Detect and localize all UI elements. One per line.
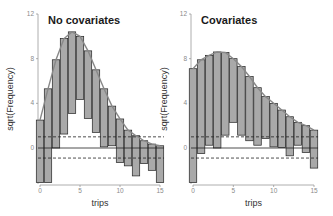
y-tick-label: 12 [180,10,188,17]
rootogram-bar [76,36,83,99]
rootogram-bar [278,110,285,147]
rootogram-bar [68,32,75,114]
x-tick-label: 0 [191,187,195,194]
rootogram-bar [270,103,277,147]
rootogram-bar [213,52,220,148]
x-tick-label: 0 [38,187,42,194]
y-axis-label: sqrt(Frequency) [159,67,169,131]
rootogram-bar [140,141,147,164]
panel-no-covariates: 04812051015No covariatestripssqrt(Freque… [5,10,164,208]
rootogram-bar [36,120,43,183]
rootogram-bar [238,66,245,135]
x-axis-label: trips [245,198,263,208]
rootogram-bar [189,69,196,183]
x-tick-label: 10 [116,187,124,194]
rootogram-bar [84,51,91,119]
rootogram-bar [116,119,123,163]
rootogram-bar [44,89,51,183]
rootogram-bar [222,53,229,136]
rootogram-bar [230,59,237,123]
y-tick-label: 12 [27,10,35,17]
panel-title: Covariates [201,14,257,26]
panel-covariates: 04812051015Covariatestripssqrt(Frequency… [159,10,318,208]
rootogram-bar [52,60,59,148]
y-tick-label: 0 [183,144,187,151]
rootogram-bar [197,60,204,154]
y-tick-label: 4 [183,99,187,106]
x-tick-label: 5 [232,187,236,194]
y-tick-label: 4 [30,99,34,106]
x-tick-label: 5 [78,187,82,194]
rootogram-bar [60,39,67,134]
y-axis-label: sqrt(Frequency) [5,67,15,131]
rootogram-bar [294,122,301,145]
y-tick-label: 8 [183,55,187,62]
x-tick-label: 15 [310,187,318,194]
panel-title: No covariates [48,14,120,26]
x-tick-label: 15 [156,187,164,194]
rootogram-bar [246,77,253,141]
rootogram-bar [286,117,293,156]
x-axis-label: trips [91,198,109,208]
rootogram-bar [92,70,99,133]
rootogram-bar [132,136,139,176]
y-tick-label: 8 [30,55,34,62]
rootogram-bar [108,106,115,146]
rootogram-bar [302,126,309,153]
rootogram-bar [156,146,163,183]
rootogram-bar [100,89,107,147]
x-tick-label: 10 [270,187,278,194]
rootogram-bar [310,130,317,168]
rootogram-bar [205,55,212,145]
y-tick-label: 0 [30,144,34,151]
rootogram-bar [262,97,269,139]
rootogram-figure: 04812051015No covariatestripssqrt(Freque… [0,0,333,216]
